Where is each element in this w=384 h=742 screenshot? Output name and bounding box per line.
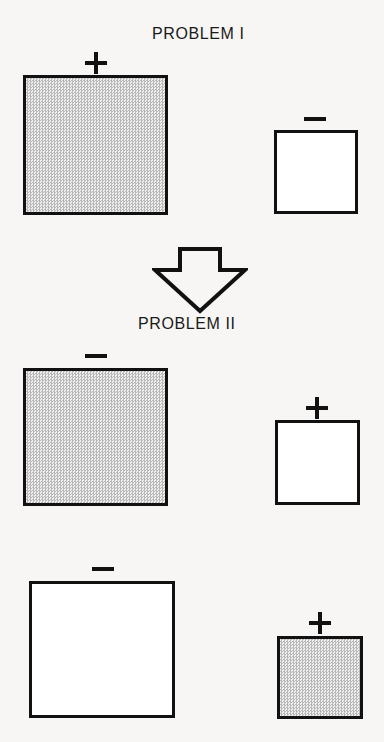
down-arrow-icon	[152, 246, 248, 314]
minus-horizontal-bar	[92, 567, 114, 571]
plus-vertical-bar	[318, 612, 322, 634]
sign-minus-r3-large	[92, 558, 114, 580]
sign-minus-r2-large	[85, 345, 107, 367]
plus-vertical-bar	[94, 52, 98, 74]
square-r3-large	[29, 581, 175, 718]
square-r2-small	[275, 420, 360, 505]
square-r1-small	[274, 130, 358, 214]
sign-plus-r1-large	[85, 52, 107, 74]
sign-plus-r2-small	[306, 397, 328, 419]
caption-problem-1: PROBLEM I	[152, 25, 245, 43]
sign-minus-r1-small	[304, 108, 326, 130]
minus-horizontal-bar	[85, 354, 107, 358]
sign-plus-r3-small	[309, 612, 331, 634]
square-r3-small	[277, 636, 363, 719]
minus-horizontal-bar	[304, 117, 326, 121]
plus-vertical-bar	[315, 397, 319, 419]
square-r1-large	[23, 75, 168, 215]
square-r2-large	[23, 368, 168, 506]
caption-problem-2: PROBLEM II	[138, 315, 236, 333]
figure-canvas: PROBLEM I PROBLEM II	[0, 0, 384, 742]
